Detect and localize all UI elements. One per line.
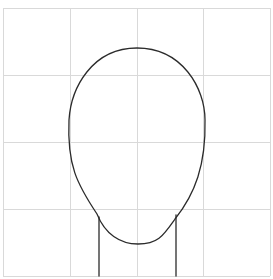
face-template-drawing bbox=[0, 0, 273, 279]
head-outline bbox=[69, 48, 205, 244]
drawing-canvas bbox=[0, 0, 273, 279]
